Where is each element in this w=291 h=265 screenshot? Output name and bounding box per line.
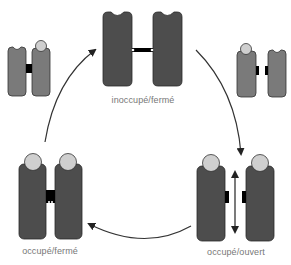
arrow-bottom xyxy=(89,224,191,239)
state-occupe-ferme xyxy=(19,154,82,240)
intermediate-top-left xyxy=(8,41,50,97)
state-occupe-ouvert xyxy=(197,155,274,242)
label-occupe-ouvert: occupé/ouvert xyxy=(207,247,265,257)
intermediate-top-right xyxy=(237,44,286,98)
label-occupe-ferme: occupé/fermé xyxy=(22,246,78,256)
state-inoccupe-ferme xyxy=(103,12,182,86)
arrow-top-right xyxy=(196,50,241,154)
cycle-diagram xyxy=(0,0,291,265)
label-inoccupe-ferme: inoccupé/fermé xyxy=(112,95,175,105)
arrow-left xyxy=(45,50,95,142)
